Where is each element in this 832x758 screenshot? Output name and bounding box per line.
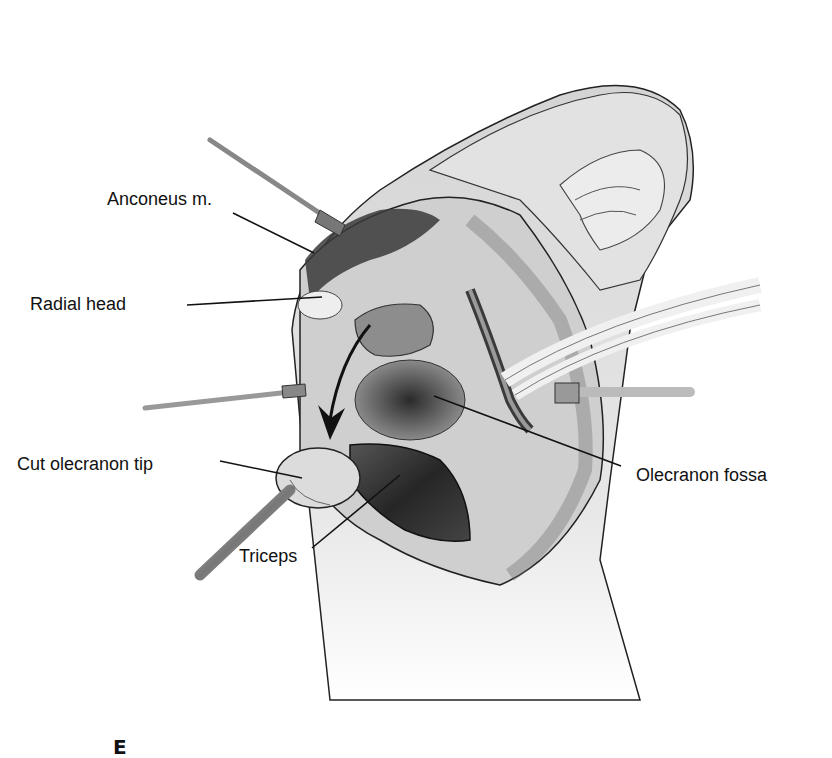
label-radial-head: Radial head — [30, 295, 126, 313]
panel-letter: E — [113, 737, 127, 757]
cut-olecranon-tip — [276, 448, 360, 508]
retractor-left — [145, 384, 306, 408]
label-cut-olecranon-tip: Cut olecranon tip — [17, 455, 153, 473]
surgical-illustration — [0, 0, 832, 758]
label-triceps: Triceps — [239, 547, 297, 565]
label-olecranon-fossa: Olecranon fossa — [636, 466, 767, 484]
label-anconeus: Anconeus m. — [107, 190, 212, 208]
retractor-top — [210, 140, 345, 236]
